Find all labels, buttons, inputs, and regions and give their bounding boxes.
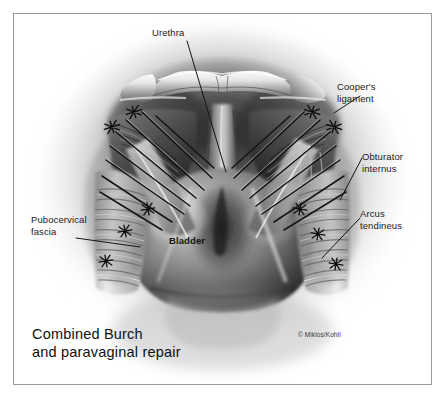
label-urethra: Urethra [152, 27, 184, 39]
figure-title: Combined Burch and paravaginal repair [32, 325, 181, 361]
copyright-notice: © Miklos/Kohli [298, 331, 341, 338]
label-bladder: Bladder [169, 235, 205, 247]
label-obturator-internus: Obturator internus [362, 151, 403, 174]
label-pubocervical-fascia: Pubocervical fascia [31, 214, 87, 237]
figure-root: Urethra Cooper's ligament Obturator inte… [0, 0, 445, 404]
label-coopers-ligament: Cooper's ligament [337, 81, 376, 104]
label-arcus-tendineus: Arcus tendineus [360, 208, 402, 231]
